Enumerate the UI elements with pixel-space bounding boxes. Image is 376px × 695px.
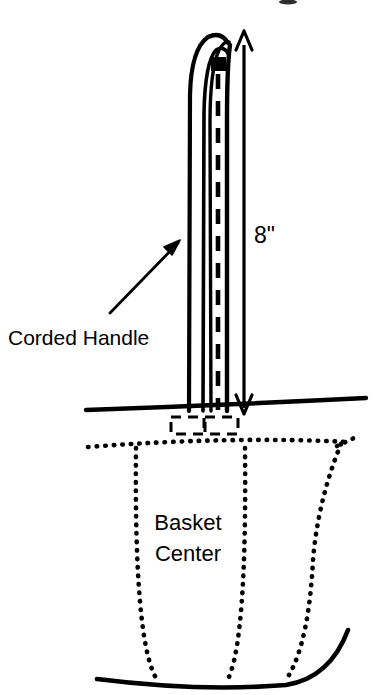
handle-top-cap-square xyxy=(211,57,226,71)
dimension-label-height: 8" xyxy=(254,222,275,248)
basket-handle-diagram: 8" Corded Handle xyxy=(0,0,376,695)
corded-handle-label: Corded Handle xyxy=(8,326,149,349)
diagram-canvas: 8" Corded Handle xyxy=(0,0,376,695)
basket-center-label-line2: Center xyxy=(155,541,221,566)
basket-center-label-line1: Basket xyxy=(154,510,221,535)
